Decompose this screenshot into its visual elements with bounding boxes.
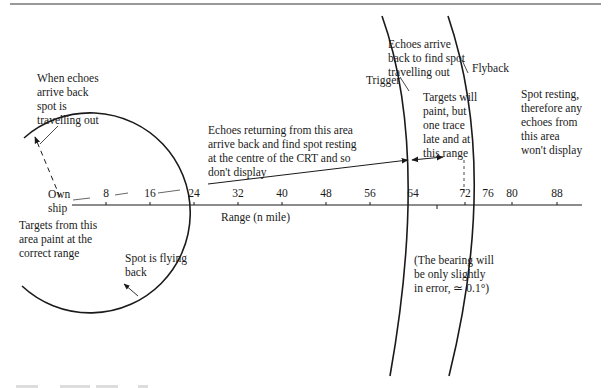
tick-label: 72 <box>459 187 471 200</box>
dashed-range-line <box>73 190 180 200</box>
tick-label: 16 <box>144 187 156 200</box>
annotation-spot-resting: Spot resting, therefore any echoes from … <box>521 87 582 157</box>
radar-range-diagram: 8 16 24 32 40 48 56 64 72 76 80 88 Own s… <box>0 0 611 388</box>
axis-title: Range (n mile) <box>221 210 290 224</box>
flyback-label: Flyback <box>472 61 509 75</box>
annotation-targets-correct-range: Targets from this area paint at the corr… <box>19 218 97 260</box>
annotation-targets-will-paint: Targets will paint, but one trace late a… <box>423 90 477 160</box>
tick-label: 48 <box>320 187 332 200</box>
annotation-spot-flying-back: Spot is flying back <box>125 251 187 279</box>
annotation-echoes-returning: Echoes returning from this area arrive b… <box>208 123 357 179</box>
leader-line-trigger <box>400 77 409 91</box>
tick-label: 56 <box>364 187 376 200</box>
tick-label: 80 <box>506 187 518 200</box>
tick-label: 64 <box>407 187 419 200</box>
caption-faint-marks <box>14 382 154 388</box>
own-ship-label: Own ship <box>48 187 70 215</box>
tick-label: 40 <box>276 187 288 200</box>
tick-label: 24 <box>188 187 200 200</box>
diagram-graphics <box>0 0 611 388</box>
leader-line-travelling-out <box>40 126 58 144</box>
trigger-label: Trigger <box>366 73 400 87</box>
figure-caption-cutoff <box>14 380 154 388</box>
leader-arrow-flying-back <box>124 284 138 296</box>
annotation-bearing-error: (The bearing will be only slightly in er… <box>414 253 494 295</box>
annotation-when-echoes-arrive: When echoes arrive back spot is travelli… <box>37 71 99 127</box>
tick-label: 88 <box>551 187 563 200</box>
tick-label: 8 <box>103 187 109 200</box>
tick-label: 76 <box>482 187 494 200</box>
tick-label: 32 <box>232 187 244 200</box>
